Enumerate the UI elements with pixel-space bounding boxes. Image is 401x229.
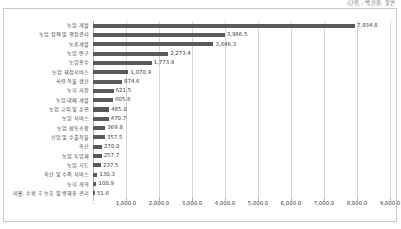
bar[interactable] [93,61,152,65]
category-label: 축산 [79,144,89,149]
bar[interactable] [93,126,105,130]
bar-row[interactable]: 1,773.9 [93,58,390,67]
bar[interactable] [93,163,101,167]
category-label: 농지 자원 [67,88,89,93]
bar-row[interactable]: 270.0 [93,142,390,151]
value-axis-tick-label: 3,000.0 [182,201,203,206]
bar-row[interactable]: 7,934.8 [93,21,390,30]
bar-value-label: 369.8 [107,125,122,130]
bar-value-label: 1,070.9 [131,70,152,75]
bar[interactable] [93,80,122,84]
category-label: 농업 서비스 [62,116,89,121]
bar[interactable] [93,145,102,149]
category-label: 농업 개발 [67,23,89,28]
value-axis-tick-label: 4,000.0 [215,201,236,206]
category-label: 농업 지도 [67,163,89,168]
category-label: 농업 교육 및 훈련 [49,107,89,112]
bar[interactable] [93,117,109,121]
bar-value-label: 237.5 [103,163,118,168]
plot-area: 7,934.83,986.53,646.32,273.41,773.91,070… [93,21,390,198]
bar-series: 7,934.83,986.53,646.32,273.41,773.91,070… [93,21,390,198]
bar-value-label: 2,273.4 [170,51,191,56]
bar[interactable] [93,154,102,158]
bar[interactable] [93,135,105,139]
bar-value-label: 485.0 [111,107,126,112]
bar[interactable] [93,89,114,93]
bar-row[interactable]: 605.6 [93,96,390,105]
category-label: 식량 작물 생산 [56,79,89,84]
category-label: 산업 및 수출작물 [51,135,89,140]
bar-row[interactable]: 357.5 [93,133,390,142]
bar-row[interactable]: 369.8 [93,123,390,132]
bar-value-label: 130.3 [99,172,114,177]
bar-row[interactable]: 470.7 [93,114,390,123]
category-label: 농업용수 [69,60,89,65]
units-note: (단위 : 백만원, 불변 [347,0,395,6]
bar[interactable] [93,191,95,195]
category-label: 농업 연구 [67,51,89,56]
category-label: 농촌개발 [69,42,89,47]
bar[interactable] [93,42,213,46]
chart-sheet: (단위 : 백만원, 불변 농업 개발농업 정책 및 행정관리농촌개발농업 연구… [0,0,401,229]
bar[interactable] [93,98,113,102]
category-label: 농업 협동조합 [57,126,89,131]
bar-row[interactable]: 257.7 [93,151,390,160]
bar-row[interactable]: 485.0 [93,105,390,114]
bar-row[interactable]: 237.5 [93,161,390,170]
bar[interactable] [93,33,225,37]
gridline [390,21,391,198]
chart-frame: 농업 개발농업 정책 및 행정관리농촌개발농업 연구농업용수농업 재정서비스식량… [3,8,397,222]
category-label: 농업 대체 개발 [56,98,89,103]
bar-value-label: 270.0 [104,144,119,149]
bar-value-label: 100.9 [99,181,114,186]
value-axis-ticks: -1,000.02,000.03,000.04,000.05,000.06,00… [93,201,390,213]
bar-value-label: 470.7 [111,116,126,121]
bar-value-label: 1,773.9 [154,60,175,65]
bar[interactable] [93,24,355,28]
value-axis-tick-label: 7,000.0 [314,201,335,206]
bar-value-label: 257.7 [104,153,119,158]
bar[interactable] [93,52,168,56]
bar-value-label: 3,986.5 [227,32,248,37]
category-label: 농지 개혁 [67,182,89,187]
category-label: 농업 투입재 [62,154,89,159]
category-label: 축산 및 수의 서비스 [44,172,89,177]
category-axis-labels: 농업 개발농업 정책 및 행정관리농촌개발농업 연구농업용수농업 재정서비스식량… [4,21,91,198]
bar-value-label: 357.5 [107,135,122,140]
bar-row[interactable]: 874.6 [93,77,390,86]
bar[interactable] [93,107,109,111]
value-axis-tick-label: 9,000.0 [380,201,401,206]
value-axis-tick-label: 5,000.0 [248,201,269,206]
bar-row[interactable]: 3,986.5 [93,30,390,39]
bar-value-label: 51.6 [97,191,109,196]
bar-row[interactable]: 621.5 [93,86,390,95]
bar-value-label: 7,934.8 [357,23,378,28]
category-label: 농업 재정서비스 [52,70,89,75]
bar-value-label: 605.6 [115,97,130,102]
category-label: 농업 정책 및 행정관리 [39,32,89,37]
bar[interactable] [93,182,96,186]
bar-value-label: 874.6 [124,79,139,84]
value-axis-tick-label: 1,000.0 [116,201,137,206]
bar-row[interactable]: 2,273.4 [93,49,390,58]
bar[interactable] [93,70,128,74]
value-axis-tick-label: - [92,201,94,206]
value-axis-tick-label: 6,000.0 [281,201,302,206]
bar-row[interactable]: 1,070.9 [93,68,390,77]
value-axis-tick-label: 2,000.0 [149,201,170,206]
bar-row[interactable]: 100.9 [93,179,390,188]
category-label: 미활, 수확 후 보호 및 병해충 관리 [13,191,89,196]
bar-value-label: 621.5 [116,88,131,93]
bar-row[interactable]: 51.6 [93,189,390,198]
bar[interactable] [93,173,97,177]
bar-row[interactable]: 3,646.3 [93,40,390,49]
bar-value-label: 3,646.3 [216,42,237,47]
value-axis-tick-label: 8,000.0 [347,201,368,206]
bar-row[interactable]: 130.3 [93,170,390,179]
